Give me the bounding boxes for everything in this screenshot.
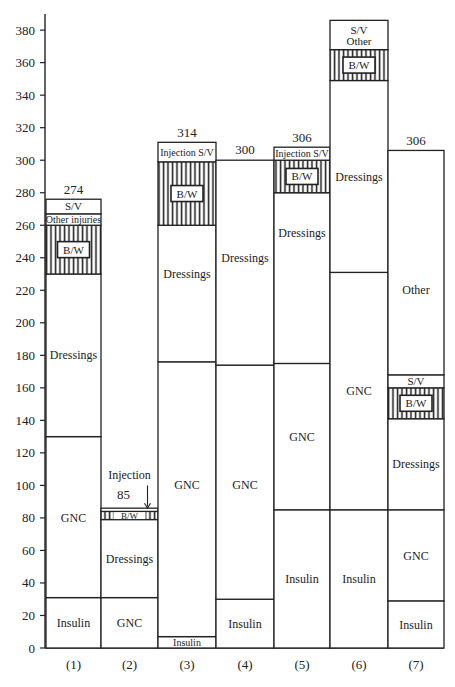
y-tick-label: 180 bbox=[16, 348, 36, 363]
x-axis-labels: (1)(2)(3)(4)(5)(6)(7) bbox=[66, 657, 424, 672]
segment-dressings bbox=[158, 225, 216, 362]
y-tick-label: 260 bbox=[16, 218, 36, 233]
segment-label: Dressings bbox=[221, 251, 269, 265]
bar-1: InsulinGNCDressingsB/WOther injuriesS/V2… bbox=[46, 182, 101, 648]
segment-label: GNC bbox=[289, 430, 314, 444]
segment-label: Dressings bbox=[278, 226, 326, 240]
y-tick-label: 40 bbox=[22, 575, 35, 590]
y-tick-label: 300 bbox=[16, 153, 36, 168]
bar-6: InsulinGNCDressingsB/WS/VOther bbox=[330, 20, 388, 648]
y-tick-label: 140 bbox=[16, 413, 36, 428]
segment-label: GNC bbox=[174, 478, 199, 492]
bw-label: B/W bbox=[63, 244, 84, 256]
x-category-label: (4) bbox=[237, 657, 252, 672]
bar-total-label: 274 bbox=[64, 182, 84, 197]
y-tick-label: 280 bbox=[16, 185, 36, 200]
x-category-label: (1) bbox=[66, 657, 81, 672]
bar-3: InsulinGNCDressingsB/WInjection S/V314 bbox=[158, 125, 216, 648]
x-category-label: (7) bbox=[408, 657, 423, 672]
segment-label: Other injuries bbox=[46, 214, 101, 225]
y-tick-label: 360 bbox=[16, 55, 36, 70]
y-tick-label: 340 bbox=[16, 88, 36, 103]
segment-label: GNC bbox=[346, 384, 371, 398]
y-tick-label: 60 bbox=[22, 543, 35, 558]
segment-label: Insulin bbox=[342, 572, 375, 586]
bw-label: B/W bbox=[177, 188, 198, 200]
segment-label: Dressings bbox=[106, 552, 154, 566]
segment-label: Dressings bbox=[392, 457, 440, 471]
injection-annotation: Injection bbox=[108, 468, 151, 482]
bars: InsulinGNCDressingsB/WOther injuriesS/V2… bbox=[46, 20, 444, 648]
segment-label: Dressings bbox=[50, 348, 98, 362]
segment-label: Injection S/V bbox=[275, 148, 329, 159]
segment-gnc bbox=[158, 362, 216, 637]
segment-label: GNC bbox=[117, 616, 142, 630]
segment-label: Other bbox=[402, 283, 429, 297]
bar-total-label: 314 bbox=[177, 125, 197, 140]
segment-label: Other bbox=[346, 35, 371, 47]
segment-label: Dressings bbox=[335, 170, 383, 184]
segment-label: Insulin bbox=[399, 618, 432, 632]
segment-label: Injection S/V bbox=[160, 147, 214, 158]
bar-5: InsulinGNCDressingsB/WInjection S/V306 bbox=[274, 130, 330, 648]
y-tick-label: 220 bbox=[16, 283, 36, 298]
y-tick-label: 160 bbox=[16, 380, 36, 395]
y-tick-label: 80 bbox=[22, 510, 35, 525]
stacked-bar-chart: 0204060801001201401601802002202402602803… bbox=[0, 0, 455, 687]
y-tick-label: 100 bbox=[16, 478, 36, 493]
segment-label: S/V bbox=[407, 375, 424, 387]
segment-dressings bbox=[274, 193, 330, 364]
bar-2: GNCDressingsB/W85Injection bbox=[101, 468, 158, 648]
segment-label: Insulin bbox=[57, 616, 90, 630]
y-tick-label: 20 bbox=[22, 608, 35, 623]
bar-total-label: 85 bbox=[117, 487, 130, 502]
y-tick-label: 120 bbox=[16, 445, 36, 460]
segment-label: S/V bbox=[65, 200, 82, 212]
segment-other bbox=[388, 150, 444, 374]
bw-label: B/W bbox=[349, 59, 370, 71]
bar-total-label: 306 bbox=[292, 130, 312, 145]
bar-4: InsulinGNCDressings300 bbox=[216, 142, 274, 648]
bw-label: B/W bbox=[406, 397, 427, 409]
x-category-label: (6) bbox=[351, 657, 366, 672]
y-tick-label: 240 bbox=[16, 250, 36, 265]
y-tick-label: 380 bbox=[16, 23, 36, 38]
y-tick-label: 0 bbox=[29, 641, 36, 656]
segment-label: Insulin bbox=[173, 637, 201, 648]
x-category-label: (3) bbox=[179, 657, 194, 672]
x-category-label: (2) bbox=[122, 657, 137, 672]
y-tick-label: 320 bbox=[16, 120, 36, 135]
segment-blank bbox=[101, 508, 158, 511]
segment-label: GNC bbox=[403, 549, 428, 563]
segment-label: Insulin bbox=[228, 617, 261, 631]
bar-total-label: 300 bbox=[235, 142, 255, 157]
segment-label: Dressings bbox=[163, 267, 211, 281]
x-category-label: (5) bbox=[294, 657, 309, 672]
segment-label: GNC bbox=[61, 511, 86, 525]
bw-label: B/W bbox=[292, 170, 313, 182]
y-tick-label: 200 bbox=[16, 315, 36, 330]
segment-label: GNC bbox=[232, 478, 257, 492]
bar-7: InsulinGNCDressingsB/WS/VOther306 bbox=[388, 133, 444, 648]
bar-total-label: 306 bbox=[406, 133, 426, 148]
segment-label: Insulin bbox=[285, 572, 318, 586]
